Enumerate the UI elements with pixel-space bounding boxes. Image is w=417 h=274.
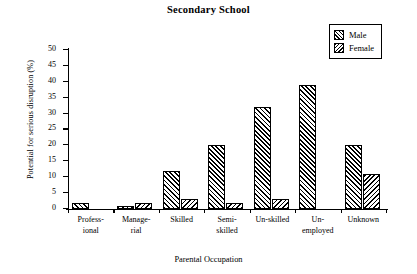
y-axis-tick: 50 xyxy=(63,49,68,50)
bar-male xyxy=(72,203,89,209)
x-axis-category-label-line: skilled xyxy=(196,226,258,237)
legend-item-male: Male xyxy=(334,29,374,41)
chart-title: Secondary School xyxy=(0,4,417,15)
bar-pair xyxy=(72,203,89,209)
y-axis-tick: 45 xyxy=(63,65,68,66)
bar-female xyxy=(181,199,198,209)
bar-female xyxy=(135,203,152,209)
y-axis-tick-label: 15 xyxy=(48,156,56,164)
plot-area: 05101520253035404550 xyxy=(68,50,386,209)
bar-male xyxy=(163,171,180,209)
x-axis-tick xyxy=(341,209,342,213)
bar-pair xyxy=(163,171,198,209)
bar-male xyxy=(345,145,362,209)
bar-female xyxy=(226,203,243,209)
x-axis-tick xyxy=(295,209,296,213)
x-axis-tick xyxy=(113,209,114,213)
y-axis-tick: 40 xyxy=(63,81,68,82)
y-axis-tick-label: 0 xyxy=(52,204,56,212)
male-hatch-swatch xyxy=(334,30,344,40)
y-axis-tick: 5 xyxy=(63,192,68,193)
y-axis-tick: 35 xyxy=(63,97,68,98)
bar-pair xyxy=(208,145,243,209)
y-axis-tick: 10 xyxy=(63,176,68,177)
bar-male xyxy=(117,206,134,209)
x-axis-tick xyxy=(204,209,205,213)
y-axis-tick: 15 xyxy=(63,160,68,161)
x-axis-title: Parental Occupation xyxy=(0,255,417,264)
y-axis-tick: 30 xyxy=(63,113,68,114)
y-axis-tick: 25 xyxy=(63,128,68,129)
y-axis-tick-label: 25 xyxy=(48,124,56,132)
bar-pair xyxy=(254,107,289,209)
y-axis-tick-label: 40 xyxy=(48,77,56,85)
x-axis-category-label-line: employed xyxy=(287,226,349,237)
bar-pair xyxy=(345,145,380,209)
y-axis-tick-label: 50 xyxy=(48,45,56,53)
x-axis-tick xyxy=(386,209,387,213)
bar-male xyxy=(208,145,225,209)
x-axis-category-label: Unknown xyxy=(332,215,394,226)
y-axis-tick-label: 30 xyxy=(48,109,56,117)
y-axis-tick-label: 10 xyxy=(48,172,56,180)
x-axis-tick xyxy=(250,209,251,213)
y-axis-tick-label: 35 xyxy=(48,93,56,101)
y-axis-title: Potential for serious disruption (%) xyxy=(26,35,35,205)
bar-male xyxy=(299,85,316,209)
y-axis-tick-label: 5 xyxy=(52,188,56,196)
y-axis-tick-label: 45 xyxy=(48,61,56,69)
bar-chart: Secondary School Male Female Potential f… xyxy=(0,0,417,274)
x-axis-tick xyxy=(159,209,160,213)
bar-male xyxy=(254,107,271,209)
bar-pair xyxy=(117,203,152,209)
bar-female xyxy=(272,199,289,209)
legend-label-male: Male xyxy=(349,31,366,40)
y-axis-tick: 20 xyxy=(63,144,68,145)
bar-pair xyxy=(299,85,316,209)
x-axis-category-label-line: Unknown xyxy=(332,215,394,226)
y-axis-tick-label: 20 xyxy=(48,140,56,148)
bar-female xyxy=(363,174,380,209)
x-axis-tick xyxy=(68,209,69,213)
x-axis-category-label-line: rial xyxy=(105,226,167,237)
